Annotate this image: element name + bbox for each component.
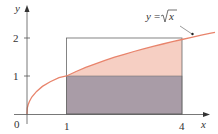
y-tick-label-2: 2 xyxy=(13,32,19,44)
x-tick-label-1: 1 xyxy=(64,120,70,132)
label-pointer-dot xyxy=(191,33,193,35)
upper-shaded-region xyxy=(67,40,183,77)
function-label-y: y xyxy=(145,10,151,22)
y-axis-label: y xyxy=(14,2,20,14)
sqrt-area-diagram: y 2 1 0 1 4 x y = x xyxy=(0,0,218,134)
function-label-eq: = xyxy=(154,10,160,22)
x-axis-arrow-icon xyxy=(203,112,210,117)
function-label: y = x xyxy=(145,10,177,22)
y-axis-arrow-icon xyxy=(25,5,30,12)
x-tick-label-4: 4 xyxy=(179,120,185,132)
y-tick-label-1: 1 xyxy=(13,70,19,82)
function-label-arg: x xyxy=(168,10,174,22)
label-pointer xyxy=(180,26,192,34)
lower-shaded-rectangle xyxy=(67,76,183,114)
x-axis-label: x xyxy=(200,118,206,130)
origin-label: 0 xyxy=(14,118,20,130)
